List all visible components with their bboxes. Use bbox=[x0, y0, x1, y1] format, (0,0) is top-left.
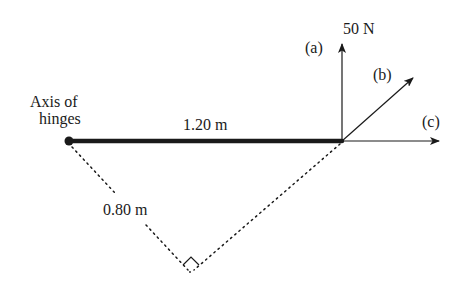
force-line-of-action bbox=[194, 144, 340, 270]
perpendicular-distance-label: 0.80 m bbox=[103, 201, 148, 218]
force-arrow-b bbox=[342, 78, 413, 141]
right-angle-marker bbox=[183, 257, 199, 265]
force-label-a: (a) bbox=[305, 39, 323, 57]
hinge-point bbox=[65, 137, 74, 146]
door-width-label: 1.20 m bbox=[183, 116, 228, 133]
force-magnitude-label: 50 N bbox=[343, 20, 375, 37]
force-diagram: Axis of hinges 1.20 m 0.80 m 50 N (a) (b… bbox=[0, 0, 457, 295]
force-label-c: (c) bbox=[422, 113, 440, 131]
perpendicular-distance-line bbox=[72, 147, 115, 193]
hinge-label-line2: hinges bbox=[39, 110, 81, 128]
right-angle-vertex bbox=[189, 271, 191, 273]
force-label-b: (b) bbox=[373, 66, 392, 84]
hinge-label-line1: Axis of bbox=[30, 93, 78, 110]
perpendicular-distance-line-lower bbox=[146, 225, 188, 270]
